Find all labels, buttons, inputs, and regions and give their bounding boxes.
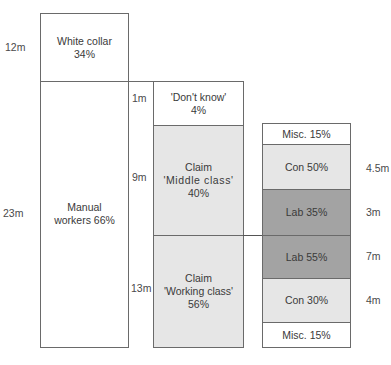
segment-manual-workers: Manual workers 66% <box>40 81 129 348</box>
segment-label: 'Don't know' <box>171 91 227 104</box>
segment-middle-class: Claim 'Middle class' 40% <box>153 125 244 236</box>
count-working-class: 13m <box>131 282 151 294</box>
segment-label: Manual <box>54 201 115 214</box>
segment-label: Claim <box>164 272 233 285</box>
segment-lab-55: Lab 55% <box>262 235 351 279</box>
segment-percent: 40% <box>163 187 233 200</box>
count-white-collar: 12m <box>5 41 25 53</box>
strip-top-line <box>128 81 154 82</box>
segment-working-class: Claim 'Working class' 56% <box>153 235 244 348</box>
count-manual-workers: 23m <box>3 207 23 219</box>
segment-dont-know: 'Don't know' 4% <box>153 81 244 126</box>
count-dont-know: 1m <box>132 92 147 104</box>
segment-label: 'Working class' <box>164 285 233 298</box>
segment-percent: 56% <box>164 298 233 311</box>
count-con-50: 4.5m <box>366 162 389 174</box>
segment-misc-top: Misc. 15% <box>262 123 351 145</box>
segment-label: White collar <box>57 35 112 48</box>
segment-percent: workers 66% <box>54 214 115 227</box>
connector-line <box>243 235 263 236</box>
count-lab-35: 3m <box>366 206 381 218</box>
segment-con-30: Con 30% <box>262 278 351 323</box>
count-lab-55: 7m <box>366 250 381 262</box>
segment-label: Claim <box>163 161 233 174</box>
count-con-30: 4m <box>366 294 381 306</box>
segment-percent: 4% <box>171 104 227 117</box>
segment-lab-35: Lab 35% <box>262 189 351 236</box>
segment-percent: 34% <box>57 48 112 61</box>
segment-white-collar: White collar 34% <box>40 13 129 82</box>
segment-con-50: Con 50% <box>262 144 351 190</box>
count-middle-class: 9m <box>132 171 147 183</box>
segment-label: 'Middle class' <box>163 174 233 187</box>
segment-misc-bottom: Misc. 15% <box>262 322 351 348</box>
